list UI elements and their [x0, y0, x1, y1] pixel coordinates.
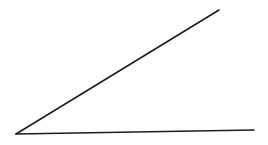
diagram-canvas	[0, 0, 268, 145]
lower-ray-line	[16, 130, 254, 134]
angle-diagram	[0, 0, 268, 145]
upper-ray-line	[16, 10, 219, 134]
